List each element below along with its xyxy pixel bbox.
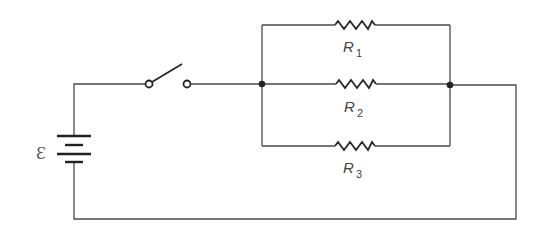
- r2-label-letter: R: [344, 98, 355, 115]
- r3-label-subscript: 3: [356, 168, 362, 180]
- resistor-r1-icon: [335, 21, 375, 29]
- emf-label: Ɛ: [36, 144, 46, 163]
- circuit-diagram: Ɛ R 1 R 2 R 3: [0, 0, 541, 234]
- r2-label-subscript: 2: [357, 107, 363, 119]
- wire-left-top: [74, 84, 148, 136]
- r3-label-letter: R: [343, 159, 354, 176]
- resistor-r3-icon: [335, 142, 375, 150]
- battery-icon: [57, 136, 91, 162]
- switch-icon: [146, 64, 191, 88]
- junction-right-icon: [447, 82, 454, 89]
- junction-left-icon: [259, 81, 266, 88]
- resistor-r2-icon: [336, 80, 376, 88]
- r1-label-letter: R: [343, 38, 354, 55]
- r1-label-subscript: 1: [356, 47, 362, 59]
